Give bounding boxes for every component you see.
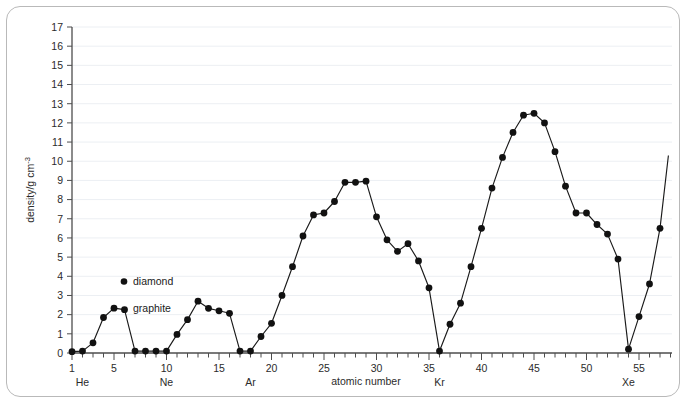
density-line: [72, 113, 668, 351]
y-tick-label: 12: [51, 117, 63, 129]
data-point: [615, 256, 622, 263]
data-point: [468, 263, 475, 270]
data-point: [216, 307, 223, 314]
element-label-xe: Xe: [622, 376, 635, 388]
y-tick-label: 10: [51, 155, 63, 167]
y-tick-label: 5: [57, 251, 63, 263]
data-point: [552, 148, 559, 155]
data-point: [415, 258, 422, 265]
data-point: [373, 213, 380, 220]
data-point: [520, 112, 527, 119]
data-point: [174, 331, 181, 338]
y-axis-title-exponent: -3: [23, 157, 32, 164]
x-tick-label: 45: [528, 362, 540, 374]
x-tick-label: 25: [318, 362, 330, 374]
x-tick-label: 15: [213, 362, 225, 374]
x-tick-label: 50: [581, 362, 593, 374]
data-point: [111, 305, 118, 312]
data-point: [184, 316, 191, 323]
data-point: [636, 313, 643, 320]
element-label-ne: Ne: [160, 376, 174, 388]
y-axis-title-text: density/g cm-3: [23, 157, 37, 223]
y-tick-label: 1: [57, 328, 63, 340]
data-point: [352, 179, 359, 186]
legend-diamond-marker: [121, 278, 128, 285]
data-point: [436, 348, 443, 355]
y-tick-label: 8: [57, 193, 63, 205]
element-label-kr: Kr: [434, 376, 445, 388]
data-point: [300, 233, 307, 240]
data-point: [132, 348, 139, 355]
data-point: [153, 348, 160, 355]
data-point: [531, 110, 538, 117]
x-tick-label: 35: [423, 362, 435, 374]
data-point: [363, 178, 370, 185]
data-point: [394, 248, 401, 255]
data-point: [226, 310, 233, 317]
data-point: [405, 240, 412, 247]
y-tick-label: 7: [57, 213, 63, 225]
data-point: [426, 284, 433, 291]
data-point: [657, 225, 664, 232]
data-point: [195, 298, 202, 305]
y-tick-label: 16: [51, 40, 63, 52]
data-point: [79, 348, 86, 355]
y-tick-label: 0: [57, 347, 63, 359]
data-series-group: [69, 110, 669, 355]
data-point: [121, 306, 128, 313]
data-point: [447, 321, 454, 328]
y-axis-title-main: density/g cm: [24, 164, 36, 223]
chart-plot-area: 01234567891011121314151617 1510152025303…: [0, 0, 688, 405]
y-tick-label: 2: [57, 308, 63, 320]
gridlines-group: [72, 27, 672, 334]
x-tick-label: 55: [633, 362, 645, 374]
y-tick-label: 9: [57, 174, 63, 186]
data-point: [69, 348, 76, 355]
y-tick-label: 17: [51, 21, 63, 33]
y-tick-label: 15: [51, 59, 63, 71]
y-tick-label: 11: [52, 136, 63, 148]
x-axis-title: atomic number: [331, 375, 401, 387]
data-point: [625, 346, 632, 353]
data-point: [594, 221, 601, 228]
data-point: [331, 198, 338, 205]
data-point: [499, 154, 506, 161]
y-tick-label: 14: [51, 78, 63, 90]
data-point: [90, 339, 97, 346]
data-point: [163, 348, 170, 355]
y-tick-label: 3: [57, 289, 63, 301]
data-point: [142, 348, 149, 355]
data-point: [289, 263, 296, 270]
data-point: [310, 212, 317, 219]
x-tick-label: 20: [266, 362, 278, 374]
element-label-he: He: [76, 376, 90, 388]
data-point: [562, 183, 569, 190]
legend-label-diamond: diamond: [133, 275, 173, 287]
data-point: [247, 348, 254, 355]
data-point: [478, 225, 485, 232]
density-markers-group: [69, 110, 664, 355]
y-axis-ticks-group: 01234567891011121314151617: [51, 21, 72, 359]
data-point: [321, 210, 328, 217]
legend-label-graphite: graphite: [133, 302, 171, 314]
data-point: [258, 333, 265, 340]
data-point: [489, 185, 496, 192]
y-tick-label: 4: [57, 270, 63, 282]
chart-legend: diamond graphite: [121, 275, 174, 314]
data-point: [583, 210, 590, 217]
data-point: [205, 305, 212, 312]
data-point: [100, 314, 107, 321]
x-tick-label: 1: [69, 362, 75, 374]
data-point: [510, 129, 517, 136]
y-axis-title: density/g cm-3: [23, 157, 37, 223]
x-tick-label: 10: [161, 362, 173, 374]
data-point: [541, 119, 548, 126]
y-tick-label: 6: [57, 232, 63, 244]
data-point: [268, 320, 275, 327]
data-point: [237, 348, 244, 355]
data-point: [573, 210, 580, 217]
x-tick-label: 40: [476, 362, 488, 374]
data-point: [384, 236, 391, 243]
y-tick-label: 13: [51, 98, 63, 110]
data-point: [279, 292, 286, 299]
